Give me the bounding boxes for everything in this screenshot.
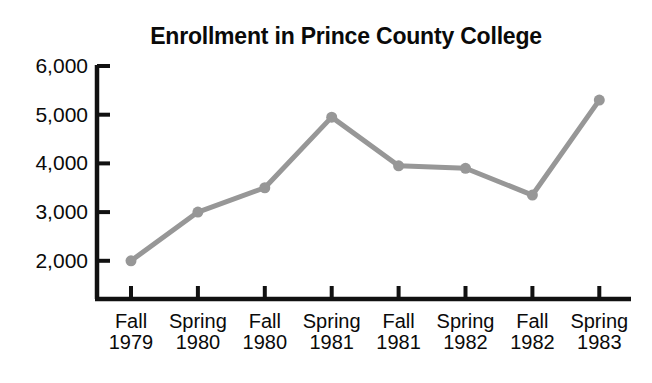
data-point-marker (192, 207, 203, 218)
data-point-marker (460, 163, 471, 174)
x-tick-label-season: Spring (554, 311, 644, 332)
y-tick-label: 3,000 (8, 201, 88, 222)
series-line (131, 100, 599, 261)
data-point-marker (326, 112, 337, 123)
chart-container: Enrollment in Prince County College 2,00… (0, 0, 652, 383)
x-tick-label: Spring1983 (554, 311, 644, 353)
data-point-marker (594, 95, 605, 106)
y-tick-label: 2,000 (8, 250, 88, 271)
y-tick-label: 6,000 (8, 55, 88, 76)
y-tick-label: 4,000 (8, 152, 88, 173)
data-point-marker (126, 255, 137, 266)
axes (95, 65, 631, 299)
data-point-marker (527, 190, 538, 201)
data-series-enrollment (126, 95, 605, 267)
data-point-marker (393, 160, 404, 171)
x-tick-label-year: 1983 (554, 332, 644, 353)
data-point-marker (259, 182, 270, 193)
y-tick-label: 5,000 (8, 104, 88, 125)
